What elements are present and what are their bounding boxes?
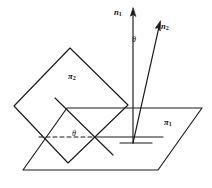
label-normal-n1: n1 xyxy=(114,8,122,17)
plane-pi1-polygon xyxy=(23,108,202,170)
normal-vector-n2-arrowhead xyxy=(155,21,160,31)
label-angle-theta-bottom: θ xyxy=(72,130,76,138)
normal-vector-n2-shaft xyxy=(133,27,159,143)
label-plane-pi1-subscript: 1 xyxy=(169,121,172,127)
label-plane-pi2: π2 xyxy=(68,72,76,81)
plane-pi2-polygon xyxy=(14,48,128,163)
in-plane-reference-line xyxy=(55,98,113,155)
label-plane-pi2-subscript: 2 xyxy=(73,75,76,81)
label-plane-pi1: π1 xyxy=(164,118,172,127)
label-normal-n1-subscript: 1 xyxy=(119,11,122,17)
figure-canvas xyxy=(0,0,212,188)
label-normal-n2-subscript: 2 xyxy=(166,25,169,31)
geometry-figure: n1 n2 π1 π2 θ θ xyxy=(0,0,212,188)
label-angle-theta-top: θ xyxy=(132,36,136,44)
label-normal-n2: n2 xyxy=(161,22,169,31)
